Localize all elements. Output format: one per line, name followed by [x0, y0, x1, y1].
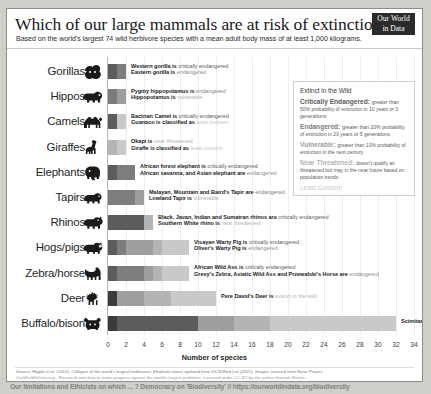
bar-segment[interactable]: [108, 89, 117, 104]
annotation-status: endangered: [348, 271, 379, 277]
bar-segment[interactable]: [117, 266, 144, 281]
annotation-status: least concern: [189, 145, 223, 151]
legend-item-name: Least Concern: [300, 184, 409, 191]
annotation-species: Visayan Warty Pig is: [194, 239, 247, 245]
bar-segment[interactable]: [117, 114, 126, 129]
row-annotation: African Wild Ass is critically endangere…: [194, 264, 379, 277]
annotation-line: Bactrian Camel is critically endangered: [131, 113, 229, 120]
legend-item: Near Threatened: doesn't qualify as thre…: [300, 159, 409, 180]
bar-segment[interactable]: [108, 316, 117, 331]
bar-segment[interactable]: [117, 240, 126, 255]
bar-segment[interactable]: [108, 291, 117, 306]
annotation-status: extinct in the wild: [274, 293, 317, 299]
annotation-status: endangered: [254, 189, 285, 195]
buffalo-icon: [81, 314, 105, 333]
bar-segment[interactable]: [117, 165, 135, 180]
row-label-camels: Camels: [47, 115, 85, 127]
x-axis-tick: 34: [410, 341, 417, 348]
bar-segment[interactable]: [108, 140, 117, 155]
x-axis-tick: 12: [212, 341, 219, 348]
stacked-bar[interactable]: [108, 165, 135, 180]
stacked-bar[interactable]: [108, 140, 126, 155]
annotation-species: African Wild Ass is: [194, 264, 243, 270]
bar-segment[interactable]: [144, 266, 153, 281]
annotation-line: Visayan Warty Pig is critically endanger…: [194, 239, 299, 246]
stacked-bar[interactable]: [108, 291, 216, 306]
stacked-bar[interactable]: [108, 316, 396, 331]
bar-segment[interactable]: [108, 215, 144, 230]
bar-segment[interactable]: [153, 266, 162, 281]
x-axis-tick: 28: [356, 341, 363, 348]
deer-icon: [81, 289, 105, 308]
legend-item: Endangered: greater than 20% probability…: [300, 123, 409, 137]
iucn-legend: Extinct in the WildCritically Endangered…: [293, 81, 415, 196]
chart-row: DeerPere David's Deer is extinct in the …: [7, 286, 422, 312]
bar-segment[interactable]: [270, 316, 396, 331]
legend-item: Vulnerable: greater than 10% probability…: [300, 141, 409, 155]
bar-segment[interactable]: [117, 291, 144, 306]
bar-segment[interactable]: [234, 316, 270, 331]
bar-segment[interactable]: [117, 89, 126, 104]
annotation-status: critically endangered: [177, 63, 229, 69]
legend-item-name: Near Threatened: doesn't qualify as thre…: [300, 159, 409, 180]
hippo-icon: [81, 87, 105, 106]
owid-logo-line2: in Data: [372, 24, 415, 34]
x-axis-tick: 24: [320, 341, 327, 348]
row-label-buffalo-bison: Buffalo/bison: [21, 317, 85, 329]
stacked-bar[interactable]: [108, 190, 144, 205]
annotation-species: Oliver's Warty Pig is: [194, 245, 247, 251]
annotation-species: Pygmy hippopotamus is: [131, 88, 195, 94]
bar-segment[interactable]: [126, 240, 153, 255]
annotation-species: African forest elephant is: [140, 163, 206, 169]
stacked-bar[interactable]: [108, 64, 126, 79]
page-footer-text: Our limitations and Ethicists on which .…: [10, 383, 425, 390]
bar-segment[interactable]: [108, 190, 135, 205]
annotation-status: critically endangered: [177, 113, 229, 119]
row-annotation: Pere David's Deer is extinct in the wild: [221, 293, 317, 300]
x-axis-tick: 20: [284, 341, 291, 348]
bar-segment[interactable]: [153, 240, 162, 255]
stacked-bar[interactable]: [108, 240, 189, 255]
bar-segment[interactable]: [117, 64, 126, 79]
x-axis-tick: 30: [374, 341, 381, 348]
bar-segment[interactable]: [117, 140, 126, 155]
bar-segment[interactable]: [144, 215, 153, 230]
x-axis-tick: 6: [160, 341, 164, 348]
bar-segment[interactable]: [117, 316, 198, 331]
annotation-status: endangered: [195, 88, 226, 94]
legend-item-name: Endangered: greater than 20% probability…: [300, 123, 409, 137]
annotation-line: Oliver's Warty Pig is endangered: [194, 245, 299, 252]
bar-segment[interactable]: [108, 266, 117, 281]
annotation-species: African savanna, and Asian elephant are: [140, 170, 245, 176]
annotation-status: critically endangered: [247, 239, 299, 245]
bar-segment[interactable]: [171, 291, 216, 306]
x-axis-tick: 14: [230, 341, 237, 348]
bar-segment[interactable]: [108, 240, 117, 255]
giraffe-icon: [81, 138, 105, 157]
bar-segment[interactable]: [108, 114, 117, 129]
annotation-line: Lowland Tapir is vulnerable: [149, 195, 285, 202]
bar-segment[interactable]: [135, 190, 144, 205]
row-label-elephants: Elephants: [36, 166, 85, 178]
stacked-bar[interactable]: [108, 114, 126, 129]
bar-segment[interactable]: [108, 165, 117, 180]
stacked-bar[interactable]: [108, 215, 153, 230]
bar-segment[interactable]: [198, 316, 234, 331]
gorilla-icon: [81, 62, 105, 81]
bar-segment[interactable]: [162, 240, 189, 255]
bar-segment[interactable]: [144, 291, 171, 306]
x-axis-tick: 0: [106, 341, 110, 348]
row-annotation: African forest elephant is critically en…: [140, 163, 276, 176]
row-label-hippos: Hippos: [50, 90, 85, 102]
stacked-bar[interactable]: [108, 266, 189, 281]
stacked-bar[interactable]: [108, 89, 126, 104]
annotation-status: near threatened: [152, 138, 192, 144]
owid-logo[interactable]: Our World in Data: [372, 13, 415, 35]
annotation-status: endangered: [245, 170, 276, 176]
annotation-species: Black, Javan, Indian and Sumatran rhinos…: [158, 214, 277, 220]
bar-segment[interactable]: [162, 266, 189, 281]
annotation-status: critically endangered: [243, 264, 295, 270]
row-annotation: Okapi is near threatenedGiraffe is class…: [131, 138, 223, 151]
bar-segment[interactable]: [108, 64, 117, 79]
row-label-gorillas: Gorillas: [48, 65, 85, 77]
